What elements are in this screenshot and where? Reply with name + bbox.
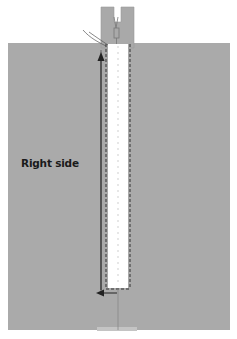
presser-foot [101,7,134,48]
diagram-svg [0,0,237,339]
zipper-strip [108,44,128,288]
right-side-label: Right side [21,157,79,169]
zipper-sewing-diagram: Right side [0,0,237,339]
